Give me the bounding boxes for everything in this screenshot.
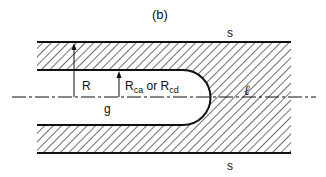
gap-label: g (104, 103, 111, 115)
panel-label: (b) (152, 8, 168, 21)
top-surface-label: s (227, 27, 233, 39)
or-text: or (143, 79, 160, 93)
radius-rc-label: Rca or Rcd (125, 80, 179, 95)
rcd-letter: R (161, 79, 170, 93)
radius-r-label: R (82, 80, 91, 92)
rca-subscript: ca (134, 85, 144, 95)
radius-rc-arrowhead (117, 71, 122, 78)
bottom-surface-label: s (227, 160, 233, 172)
axis-label: ℓ (244, 84, 250, 98)
rca-letter: R (125, 79, 134, 93)
rcd-subscript: cd (169, 85, 179, 95)
